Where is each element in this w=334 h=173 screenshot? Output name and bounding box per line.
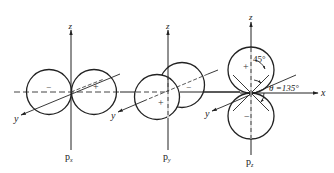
panel-py: z y + − py bbox=[110, 21, 240, 163]
theta-label: θ =135° bbox=[269, 83, 299, 93]
y-axis-label: y bbox=[13, 113, 19, 124]
y-axis-hidden-dashed bbox=[71, 79, 104, 92]
angle-theta-arc-upper bbox=[254, 80, 261, 83]
z-axis-label: z bbox=[68, 21, 73, 31]
orbital-label-px: px bbox=[65, 151, 73, 163]
y-axis-arrow-tail bbox=[212, 107, 222, 111]
lobe-positive bbox=[135, 75, 180, 120]
sign-negative: − bbox=[186, 82, 191, 92]
sign-positive: + bbox=[158, 97, 164, 108]
sign-positive: + bbox=[243, 61, 249, 72]
z-axis-label: z bbox=[248, 12, 253, 22]
sign-positive: + bbox=[93, 81, 99, 92]
angle-45-label: 45° bbox=[253, 54, 266, 64]
panel-pz: x y z 45° θ =135° + − pz bbox=[204, 12, 326, 168]
sign-negative: − bbox=[244, 111, 250, 122]
y-axis-upper bbox=[208, 70, 218, 74]
sign-negative: − bbox=[46, 82, 51, 92]
orbital-label-pz: pz bbox=[246, 156, 254, 168]
z-axis-label: z bbox=[165, 21, 170, 31]
y-axis-label: y bbox=[204, 108, 210, 119]
angle-theta-arc bbox=[261, 93, 264, 102]
y-axis-label: y bbox=[110, 110, 116, 121]
p-orbitals-diagram: z y − + px z y + − py bbox=[0, 0, 334, 173]
orbital-label-py: py bbox=[163, 151, 171, 163]
x-axis-label: x bbox=[320, 87, 326, 98]
panel-px: z y − + px bbox=[13, 21, 120, 163]
